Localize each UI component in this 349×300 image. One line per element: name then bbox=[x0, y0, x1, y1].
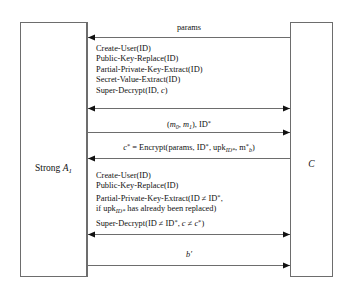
guess-prime: ′ bbox=[190, 250, 192, 259]
oracle2-line-if-upk-replaced: if upkID* has already been replaced) bbox=[96, 204, 223, 216]
actor-label-symbol-c: C bbox=[308, 159, 314, 169]
message-arrow-oracle-phase1 bbox=[87, 104, 291, 113]
actor-box-challenger: C bbox=[290, 22, 333, 277]
message-label-params: params bbox=[87, 23, 291, 33]
message-arrow-challenge-messages bbox=[87, 128, 291, 137]
message-block-oracle-phase1: Create-User(ID) Public-Key-Replace(ID) P… bbox=[96, 44, 203, 96]
actor-label-prefix: Strong bbox=[35, 163, 63, 173]
message-arrow-params bbox=[87, 33, 291, 42]
oracle-line-partial-private-key-extract: Partial-Private-Key-Extract(ID) bbox=[96, 65, 203, 75]
oracle2-line-public-key-replace: Public-Key-Replace(ID) bbox=[96, 181, 223, 191]
oracle-line-create-user: Create-User(ID) bbox=[96, 44, 203, 54]
enc-close: ) bbox=[252, 143, 255, 152]
ifupk-rest: has already been replaced) bbox=[125, 204, 216, 213]
super-decrypt-text: Super-Decrypt(ID, bbox=[96, 86, 161, 95]
message-arrow-oracle-phase2 bbox=[87, 230, 291, 239]
super-decrypt-close: ) bbox=[165, 86, 168, 95]
oracle2-line-super-decrypt: Super-Decrypt(ID ≠ ID*, c ≠ c*) bbox=[96, 217, 223, 230]
ppke2-text: Partial-Private-Key-Extract(ID ≠ ID bbox=[96, 194, 217, 203]
actor-label-subscript: 1 bbox=[69, 167, 72, 174]
sd2-text: Super-Decrypt(ID ≠ ID bbox=[96, 219, 174, 228]
ifupk-text: if upk bbox=[96, 204, 116, 213]
ifupk-subscript: ID* bbox=[116, 208, 125, 214]
ppke2-comma: , bbox=[221, 194, 223, 203]
enc-upk-subscript: ID* bbox=[226, 147, 235, 153]
enc-m: , m bbox=[235, 143, 246, 152]
message-arrow-challenge-ciphertext bbox=[87, 154, 291, 163]
oracle2-line-partial-private-key-extract: Partial-Private-Key-Extract(ID ≠ ID*, bbox=[96, 192, 223, 205]
message-label-guess: b′ bbox=[87, 250, 291, 260]
oracle-line-super-decrypt: Super-Decrypt(ID, c) bbox=[96, 86, 203, 96]
sd2-close: ) bbox=[201, 219, 204, 228]
actor-label-strong-a1: Strong A1 bbox=[21, 163, 86, 174]
enc-eq: = Encrypt(params, ID bbox=[130, 143, 205, 152]
oracle2-line-create-user: Create-User(ID) bbox=[96, 171, 223, 181]
enc-upk: , upk bbox=[209, 143, 226, 152]
sequence-diagram: Strong A1 C params Create-User(ID) Publi… bbox=[0, 0, 349, 300]
oracle-line-public-key-replace: Public-Key-Replace(ID) bbox=[96, 54, 203, 64]
message-arrow-guess bbox=[87, 261, 291, 270]
actor-label-challenger: C bbox=[291, 159, 332, 169]
oracle-line-secret-value-extract: Secret-Value-Extract(ID) bbox=[96, 75, 203, 85]
actor-box-strong-a1: Strong A1 bbox=[20, 22, 87, 277]
message-block-oracle-phase2: Create-User(ID) Public-Key-Replace(ID) P… bbox=[96, 171, 223, 229]
m-id-star: * bbox=[208, 119, 211, 126]
